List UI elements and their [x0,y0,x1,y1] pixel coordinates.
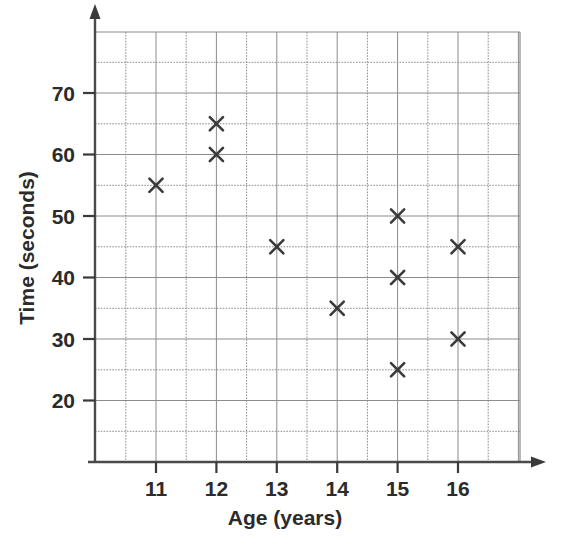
y-tick-label: 20 [52,389,75,412]
x-tick-label: 11 [145,477,168,500]
scatter-plot-figure: 111213141516 203040506070 Age (years) Ti… [0,0,570,537]
y-tick-label: 40 [52,266,75,289]
chart-background [0,0,570,537]
x-tick-label: 15 [386,477,410,500]
x-tick-label: 13 [265,477,288,500]
y-tick-label: 70 [52,82,75,105]
y-tick-label: 50 [52,205,75,228]
y-tick-label: 60 [52,143,75,166]
y-axis-title: Time (seconds) [15,171,38,325]
x-axis-title: Age (years) [228,506,342,529]
x-tick-label: 16 [446,477,469,500]
x-tick-label: 14 [326,477,350,500]
chart-canvas: 111213141516 203040506070 Age (years) Ti… [0,0,570,537]
x-tick-label: 12 [205,477,228,500]
y-tick-label: 30 [52,328,75,351]
